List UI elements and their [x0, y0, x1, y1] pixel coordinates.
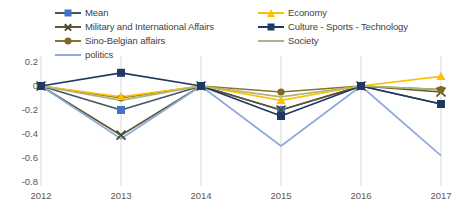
data-point-marker	[277, 112, 285, 120]
series-markers	[37, 69, 446, 140]
plot-area: 0.20-0.2-0.4-0.6-0.8 2012201320142015201…	[0, 0, 452, 212]
x-axis-tick-label: 2012	[11, 190, 71, 201]
y-axis-tick-label: -0.8	[0, 177, 38, 187]
x-axis-tick-label: 2017	[411, 190, 452, 201]
y-axis-tick-label: 0	[0, 81, 38, 91]
data-point-marker	[357, 82, 365, 90]
line-chart: MeanMilitary and International AffairsSi…	[0, 0, 452, 212]
y-axis-tick-label: 0.2	[0, 57, 38, 67]
x-axis-tick-label: 2016	[331, 190, 391, 201]
data-point-marker	[437, 100, 445, 108]
x-axis-tick-label: 2015	[251, 190, 311, 201]
data-point-marker	[437, 72, 446, 80]
data-point-marker	[117, 106, 125, 114]
x-axis-tick-label: 2014	[171, 190, 231, 201]
data-point-marker	[37, 82, 45, 90]
y-axis-tick-label: -0.4	[0, 129, 38, 139]
data-point-marker	[437, 86, 444, 93]
series-lines	[41, 73, 441, 156]
data-point-marker	[197, 82, 205, 90]
chart-canvas	[0, 0, 452, 212]
data-point-marker	[277, 88, 284, 95]
y-axis-tick-label: -0.6	[0, 153, 38, 163]
y-axis-tick-label: -0.2	[0, 105, 38, 115]
data-point-marker	[117, 69, 125, 77]
x-axis-tick-label: 2013	[91, 190, 151, 201]
